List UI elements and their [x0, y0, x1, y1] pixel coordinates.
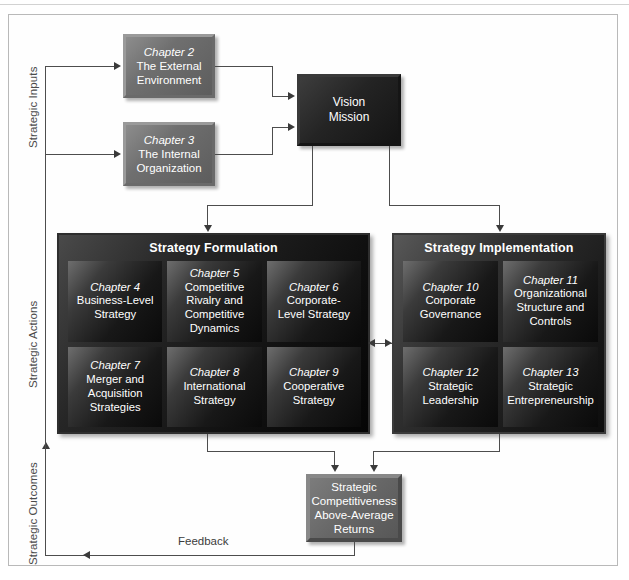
chapter-3-title-line2: Organization	[136, 161, 201, 175]
arrow-implementation-to-outcome	[370, 465, 378, 472]
feedback-label: Feedback	[178, 535, 229, 547]
outcome-line-2: Competitiveness	[311, 494, 396, 508]
arrow-feedback-left	[83, 551, 90, 559]
formulation-cell-1-line-2: Strategy	[94, 308, 136, 322]
arrow-feedback-up	[42, 442, 50, 449]
formulation-cell-3[interactable]: Chapter 6Corporate-Level Strategy	[267, 261, 361, 342]
outcome-line-1: Strategic	[331, 480, 376, 494]
formulation-cell-2-line-1: Competitive	[185, 281, 245, 295]
formulation-cell-6-line-1: Cooperative	[283, 380, 344, 394]
formulation-cell-5-line-2: Strategy	[193, 394, 235, 408]
formulation-cell-3-line-2: Level Strategy	[278, 308, 350, 322]
vision-label: Vision	[333, 95, 365, 110]
connector-implementation-to-outcome	[373, 451, 500, 452]
formulation-cell-2-line-3: Competitive	[185, 308, 245, 322]
diagram-canvas: Strategic Inputs Strategic Actions Strat…	[0, 0, 629, 580]
connector-to-chapter-2	[45, 66, 114, 67]
formulation-cell-6-chapter: Chapter 9	[289, 366, 339, 380]
arrow-to-chapter-2	[114, 62, 121, 70]
implementation-cell-1[interactable]: Chapter 10CorporateGovernance	[403, 261, 498, 342]
connector-implementation-down	[499, 434, 500, 452]
implementation-cell-3-chapter: Chapter 12	[423, 366, 479, 380]
box-vision-mission[interactable]: Vision Mission	[297, 74, 401, 146]
formulation-cell-2-chapter: Chapter 5	[190, 267, 240, 281]
formulation-cell-5-chapter: Chapter 8	[190, 366, 240, 380]
formulation-cell-grid: Chapter 4Business-LevelStrategyChapter 5…	[68, 261, 361, 427]
axis-label-strategic-inputs: Strategic Inputs	[27, 66, 39, 148]
outcome-line-4: Returns	[334, 522, 374, 536]
chapter-3-label: Chapter 3	[144, 133, 195, 147]
mission-label: Mission	[329, 110, 370, 125]
implementation-cell-1-line-2: Governance	[420, 308, 482, 322]
connector-formulation-stub	[207, 205, 208, 226]
formulation-cell-2-line-2: Rivalry and	[186, 294, 243, 308]
implementation-cell-4-chapter: Chapter 13	[523, 366, 579, 380]
connector-ch2-out	[215, 66, 273, 67]
connector-outcome-right-stub	[373, 451, 374, 466]
formulation-cell-6-line-2: Strategy	[293, 394, 335, 408]
implementation-cell-4-line-1: Strategic	[528, 380, 573, 394]
implementation-cell-1-chapter: Chapter 10	[423, 281, 479, 295]
connector-feedback-riser	[45, 449, 46, 556]
connector-vision-drop-left	[312, 146, 313, 206]
connector-formulation-down	[207, 434, 208, 452]
chapter-3-title-line1: The Internal	[138, 147, 199, 161]
connector-vision-drop-right	[389, 146, 390, 206]
panel-strategy-implementation[interactable]: Strategy Implementation Chapter 10Corpor…	[392, 233, 606, 434]
formulation-cell-5-line-1: International	[183, 380, 245, 394]
connector-implementation-stub	[499, 205, 500, 226]
panel-title-strategy-implementation: Strategy Implementation	[394, 241, 604, 255]
arrow-formulation-to-outcome	[331, 465, 339, 472]
box-chapter-3-internal-organization[interactable]: Chapter 3 The Internal Organization	[123, 122, 215, 186]
connector-vision-to-implementation	[389, 205, 500, 206]
connector-vision-to-formulation	[207, 205, 313, 206]
connector-ch2-into-vision	[272, 96, 289, 97]
connector-formulation-to-outcome	[207, 451, 335, 452]
formulation-cell-4-line-2: Acquisition	[88, 387, 143, 401]
implementation-cell-2-line-3: Controls	[529, 315, 571, 329]
implementation-cell-4[interactable]: Chapter 13StrategicEntrepreneurship	[503, 347, 598, 428]
connector-ch3-out	[215, 154, 273, 155]
formulation-cell-3-line-1: Corporate-	[287, 294, 341, 308]
formulation-cell-1-chapter: Chapter 4	[90, 281, 140, 295]
formulation-cell-3-chapter: Chapter 6	[289, 281, 339, 295]
connector-input-spine	[45, 66, 46, 449]
implementation-cell-3[interactable]: Chapter 12StrategicLeadership	[403, 347, 498, 428]
arrow-into-strategy-implementation	[496, 225, 504, 232]
formulation-cell-4[interactable]: Chapter 7Merger andAcquisitionStrategies	[68, 347, 162, 428]
implementation-cell-2-line-1: Organizational	[514, 287, 587, 301]
axis-label-strategic-actions: Strategic Actions	[27, 301, 39, 388]
connector-ch3-into-vision	[272, 127, 289, 128]
formulation-cell-1[interactable]: Chapter 4Business-LevelStrategy	[68, 261, 162, 342]
formulation-cell-1-line-1: Business-Level	[77, 294, 154, 308]
arrow-ch2-to-vision	[288, 92, 295, 100]
arrow-panels-right	[385, 339, 392, 347]
connector-feedback-run	[45, 555, 355, 556]
implementation-cell-3-line-2: Leadership	[423, 394, 479, 408]
connector-to-chapter-3	[45, 154, 114, 155]
arrow-panels-left	[368, 339, 375, 347]
formulation-cell-6[interactable]: Chapter 9CooperativeStrategy	[267, 347, 361, 428]
implementation-cell-2[interactable]: Chapter 11OrganizationalStructure andCon…	[503, 261, 598, 342]
connector-ch2-drop	[272, 66, 273, 97]
formulation-cell-5[interactable]: Chapter 8InternationalStrategy	[167, 347, 261, 428]
implementation-cell-2-line-2: Structure and	[517, 301, 585, 315]
implementation-cell-1-line-1: Corporate	[425, 294, 475, 308]
chapter-2-label: Chapter 2	[144, 45, 195, 59]
box-strategic-outcomes[interactable]: Strategic Competitiveness Above-Average …	[306, 474, 402, 542]
chapter-2-title-line2: Environment	[137, 73, 202, 87]
panel-strategy-formulation[interactable]: Strategy Formulation Chapter 4Business-L…	[57, 233, 370, 434]
axis-label-strategic-outcomes: Strategic Outcomes	[27, 462, 39, 565]
formulation-cell-4-line-3: Strategies	[90, 401, 141, 415]
panel-title-strategy-formulation: Strategy Formulation	[59, 241, 368, 255]
implementation-cell-2-chapter: Chapter 11	[523, 274, 578, 288]
connector-outcome-feedback-drop	[354, 542, 355, 556]
connector-ch3-rise	[272, 127, 273, 155]
formulation-cell-2[interactable]: Chapter 5CompetitiveRivalry andCompetiti…	[167, 261, 261, 342]
arrow-ch3-to-vision	[288, 123, 295, 131]
formulation-cell-2-line-4: Dynamics	[190, 322, 240, 336]
implementation-cell-4-line-2: Entrepreneurship	[507, 394, 594, 408]
arrow-into-strategy-formulation	[204, 225, 212, 232]
box-chapter-2-external-environment[interactable]: Chapter 2 The External Environment	[123, 34, 215, 98]
implementation-cell-3-line-1: Strategic	[428, 380, 473, 394]
